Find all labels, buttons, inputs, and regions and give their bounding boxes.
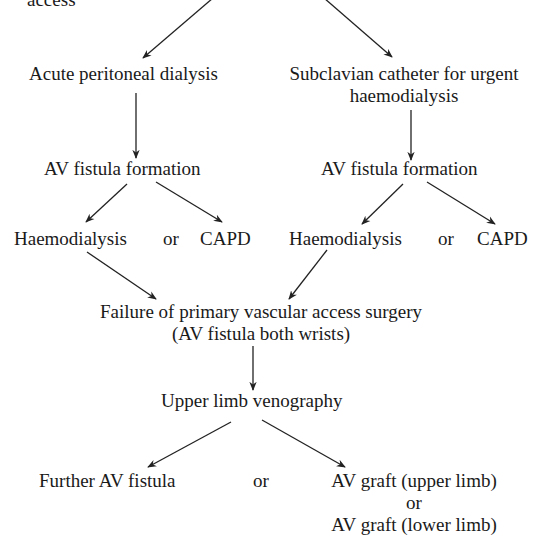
arrow-avf-right-to-capd [427, 182, 495, 224]
node-failure-line2: (AV fistula both wrists) [84, 323, 438, 345]
node-right-or: or [438, 228, 454, 250]
node-subclavian-line2: haemodialysis [266, 85, 542, 107]
node-right-haemodialysis: Haemodialysis [289, 228, 402, 250]
node-subclavian-line1: Subclavian catheter for urgent [266, 63, 542, 85]
node-left-hd-text: Haemodialysis [14, 228, 127, 249]
node-avf-left-text: AV fistula formation [44, 158, 201, 179]
arrow-avf-left-to-capd [156, 182, 222, 222]
node-avf-right: AV fistula formation [321, 158, 478, 180]
arrow-top-to-acute-pd [143, 0, 213, 58]
node-final-or: or [253, 470, 269, 492]
node-top-fragment: access [27, 0, 76, 11]
node-top-fragment-text: access [27, 0, 76, 10]
node-left-or-text: or [163, 228, 179, 249]
node-right-capd-text: CAPD [477, 228, 528, 249]
node-acute-pd-text: Acute peritoneal dialysis [29, 63, 218, 84]
node-grafts-line2: or [313, 492, 515, 514]
node-right-hd-text: Haemodialysis [289, 228, 402, 249]
node-acute-peritoneal-dialysis: Acute peritoneal dialysis [29, 63, 218, 85]
arrow-top-to-subclavian [324, 0, 392, 57]
node-further-avf-text: Further AV fistula [39, 470, 176, 491]
node-grafts-line1: AV graft (upper limb) [313, 470, 515, 492]
node-upper-limb-venography: Upper limb venography [161, 390, 343, 412]
arrow-avf-right-to-hd [362, 184, 403, 224]
arrow-avf-left-to-hd [86, 184, 127, 222]
node-venography-text: Upper limb venography [161, 390, 343, 411]
node-failure-line1: Failure of primary vascular access surge… [84, 301, 438, 323]
arrow-right-hd-to-failure [289, 250, 327, 299]
node-grafts-line3: AV graft (lower limb) [313, 514, 515, 536]
node-failure: Failure of primary vascular access surge… [84, 301, 438, 345]
node-avf-left: AV fistula formation [44, 158, 201, 180]
arrow-left-hd-to-failure [87, 252, 156, 299]
node-right-or-text: or [438, 228, 454, 249]
node-right-capd: CAPD [477, 228, 528, 250]
arrow-venography-to-further-avf [148, 422, 231, 467]
node-left-haemodialysis: Haemodialysis [14, 228, 127, 250]
node-final-or-text: or [253, 470, 269, 491]
node-subclavian-catheter: Subclavian catheter for urgent haemodial… [266, 63, 542, 107]
arrow-venography-to-grafts [262, 420, 345, 467]
node-left-capd: CAPD [200, 228, 251, 250]
node-left-or: or [163, 228, 179, 250]
node-further-av-fistula: Further AV fistula [39, 470, 176, 492]
node-left-capd-text: CAPD [200, 228, 251, 249]
node-av-grafts: AV graft (upper limb) or AV graft (lower… [313, 470, 515, 536]
node-avf-right-text: AV fistula formation [321, 158, 478, 179]
